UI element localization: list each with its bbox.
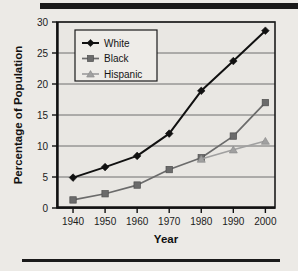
legend-label-hispanic: Hispanic xyxy=(104,69,142,80)
x-tick-label: 1990 xyxy=(222,216,245,227)
chart-figure: 051015202530 194019501960197019801990200… xyxy=(0,0,298,271)
x-axis-title: Year xyxy=(154,233,179,245)
legend-label-white: White xyxy=(104,38,130,49)
y-tick-label: 0 xyxy=(42,203,48,214)
data-point xyxy=(70,197,76,203)
y-tick-label: 15 xyxy=(37,110,49,121)
data-point xyxy=(230,133,236,139)
data-point xyxy=(166,166,172,172)
chart-legend: WhiteBlackHispanic xyxy=(75,30,157,81)
x-tick-label: 1970 xyxy=(158,216,181,227)
x-tick-label: 2000 xyxy=(254,216,277,227)
legend-label-black: Black xyxy=(104,53,129,64)
x-tick-label: 1940 xyxy=(62,216,85,227)
y-tick-label: 30 xyxy=(37,17,49,28)
x-axis-tick-labels: 1940195019601970198019902000 xyxy=(62,216,277,227)
y-tick-label: 10 xyxy=(37,141,49,152)
chart-canvas: 051015202530 194019501960197019801990200… xyxy=(0,0,298,271)
data-point xyxy=(262,99,268,105)
legend-marker-black xyxy=(88,56,94,62)
x-tick-label: 1960 xyxy=(126,216,149,227)
y-tick-label: 5 xyxy=(42,172,48,183)
y-tick-label: 25 xyxy=(37,48,49,59)
x-tick-label: 1950 xyxy=(94,216,117,227)
y-axis-title: Percentage of Population xyxy=(12,46,24,185)
data-point xyxy=(134,182,140,188)
line-chart: 051015202530 194019501960197019801990200… xyxy=(0,0,298,271)
y-axis-tick-labels: 051015202530 xyxy=(37,17,49,214)
x-tick-label: 1980 xyxy=(190,216,213,227)
y-tick-label: 20 xyxy=(37,79,49,90)
data-point xyxy=(102,191,108,197)
